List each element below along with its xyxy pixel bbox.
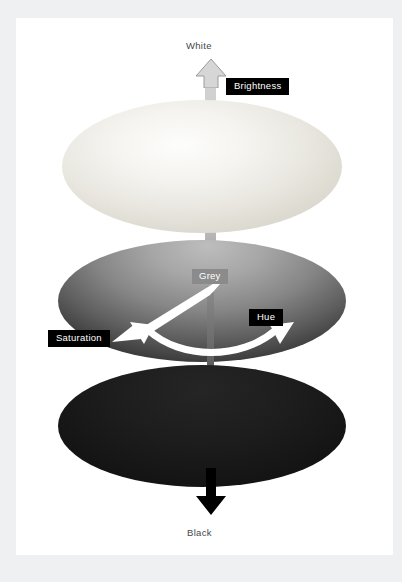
hue-curved-arrow-icon — [126, 320, 296, 364]
down-arrow-icon — [192, 468, 230, 516]
badge-saturation: Saturation — [48, 330, 110, 347]
badge-grey: Grey — [192, 269, 228, 284]
white-plane-ellipse — [62, 100, 342, 233]
badge-hue: Hue — [249, 309, 283, 326]
diagram-canvas: White Black Brightness Saturation Hue Gr… — [0, 0, 402, 582]
up-arrow-icon — [195, 58, 227, 88]
label-black: Black — [187, 527, 212, 538]
label-white: White — [186, 40, 212, 51]
badge-brightness: Brightness — [226, 78, 289, 95]
